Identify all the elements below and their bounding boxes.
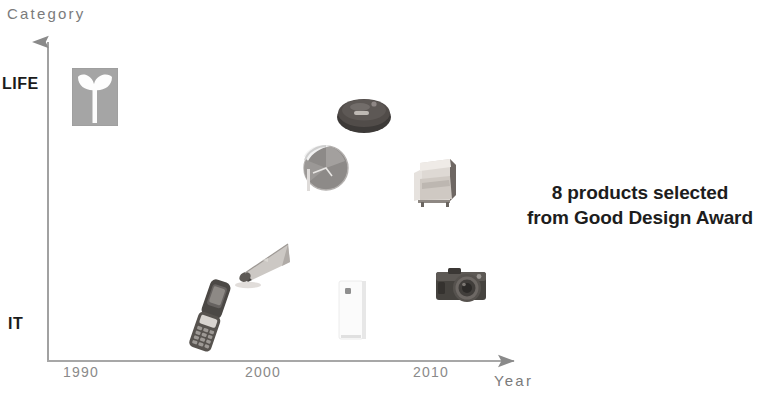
datapoint-white-appliance-icon	[337, 277, 371, 343]
datapoint-desk-lamp-icon	[232, 240, 294, 290]
annotation-text: 8 products selected from Good Design Awa…	[516, 180, 764, 231]
x-axis-tick-2000: 2000	[245, 364, 281, 380]
x-axis-title: Year	[494, 372, 533, 389]
chart-canvas: Category Year LIFE IT 1990 2000 2010 8 p…	[0, 0, 764, 398]
datapoint-flip-phone-icon	[182, 277, 238, 353]
y-axis-tick-it: IT	[8, 315, 23, 333]
annotation-line-1: 8 products selected	[516, 180, 764, 205]
x-axis-tick-1990: 1990	[63, 364, 99, 380]
y-axis-title: Category	[7, 5, 85, 22]
datapoint-circular-fan-icon	[299, 142, 351, 194]
x-axis-tick-2010: 2010	[413, 364, 449, 380]
datapoint-robot-vacuum-icon	[334, 93, 394, 137]
datapoint-lighting-product-icon	[72, 68, 118, 126]
y-axis-tick-life: LIFE	[2, 75, 39, 93]
datapoint-armchair-icon	[406, 155, 466, 209]
annotation-line-2: from Good Design Award	[516, 205, 764, 230]
datapoint-mirrorless-camera-icon	[434, 262, 492, 310]
